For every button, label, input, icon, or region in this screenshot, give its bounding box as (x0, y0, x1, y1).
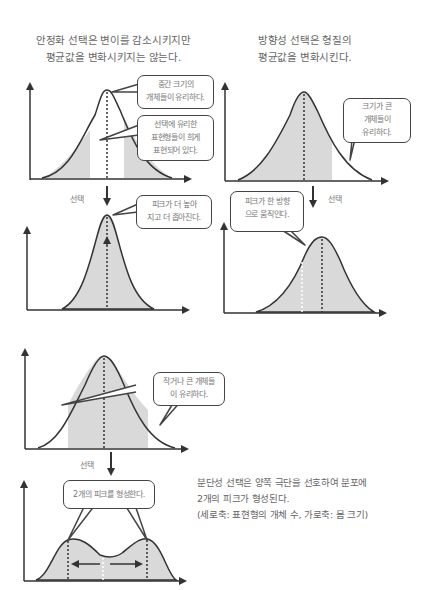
bubble-line: 으로 움직인다. (231, 208, 303, 221)
tail-stab-after (113, 204, 138, 215)
caption-line: 2개의 피크가 형성된다. (197, 491, 368, 507)
bubble-stabilizing-result: 피크가 더 높아 지고 더 좁아진다. (136, 195, 212, 229)
selection-label: 선택 (328, 193, 342, 204)
bubble-directional-result: 피크가 한 방향 으로 움직인다. (230, 191, 304, 232)
shifted-bell-curve (256, 237, 374, 312)
bubble-line: 지고 더 좁아진다. (137, 211, 211, 224)
bubble-line: 표현되어 있다. (138, 144, 213, 157)
caption-line: 평균값을 변화시키지는 않는다. (36, 49, 191, 66)
bubble-line: 개체들이 (344, 113, 410, 126)
bubble-line: 중간 크기의 (138, 78, 213, 91)
stabilizing-caption: 안정화 선택은 변이를 감소시키지만 평균값을 변화시키지는 않는다. (36, 32, 191, 66)
bubble-line: 이 유리하다. (154, 388, 224, 401)
caption-line: (세로축: 표현형의 개체 수, 가로축: 몸 크기) (197, 507, 368, 523)
disruptive-caption: 분단성 선택은 양쪽 극단을 선호하여 분포에 2개의 피크가 형성된다. (세… (197, 475, 368, 523)
caption-line: 평균값을 변화시킨다. (258, 49, 351, 66)
bubble-disruptive-result: 2개의 피크를 형성한다. (63, 480, 155, 509)
bubble-line: 작거나 큰 개체들 (154, 375, 224, 388)
bubble-line: 표현형들이 희게 (138, 131, 213, 144)
bubble-line: 유리하다. (344, 126, 410, 139)
bimodal-curve (36, 539, 176, 580)
tail-dir-after (282, 230, 305, 245)
bubble-line: 피크가 더 높아 (137, 198, 211, 211)
bubble-line: 2개의 피크를 형성한다. (64, 481, 154, 508)
disruptive-before-graph (25, 350, 187, 474)
tail-bimodal-right (125, 505, 147, 540)
bell-curve-narrow (62, 215, 154, 309)
directional-caption: 방향성 선택은 형질의 평균값을 변화시킨다. (258, 32, 351, 66)
selection-label: 선택 (80, 459, 94, 470)
tail-middle (112, 84, 139, 92)
bubble-rare-phenotypes: 선택에 유리한 표현형들이 희게 표현되어 있다. (137, 115, 214, 161)
bubble-large-favored: 크기가 큰 개체들이 유리하다. (343, 98, 411, 143)
directional-after-graph (224, 224, 385, 313)
bubble-line: 크기가 큰 (344, 100, 410, 113)
bubble-line: 선택에 유리한 (138, 118, 213, 131)
bubble-line: 피크가 한 방향 (231, 195, 303, 208)
selection-label: 선택 (70, 193, 84, 204)
stabilizing-after-graph (27, 215, 188, 310)
bubble-line: 개체들이 유리하다. (138, 91, 213, 104)
caption-line: 안정화 선택은 변이를 감소시키지만 (36, 32, 191, 49)
tail-bimodal-left (68, 505, 95, 540)
caption-line: 분단성 선택은 양쪽 극단을 선호하여 분포에 (197, 475, 368, 491)
shaded-left-region (238, 92, 332, 180)
caption-line: 방향성 선택은 형질의 (258, 32, 351, 49)
bubble-middle-favored: 중간 크기의 개체들이 유리하다. (137, 75, 214, 109)
bubble-extremes-favored: 작거나 큰 개체들 이 유리하다. (153, 372, 225, 406)
